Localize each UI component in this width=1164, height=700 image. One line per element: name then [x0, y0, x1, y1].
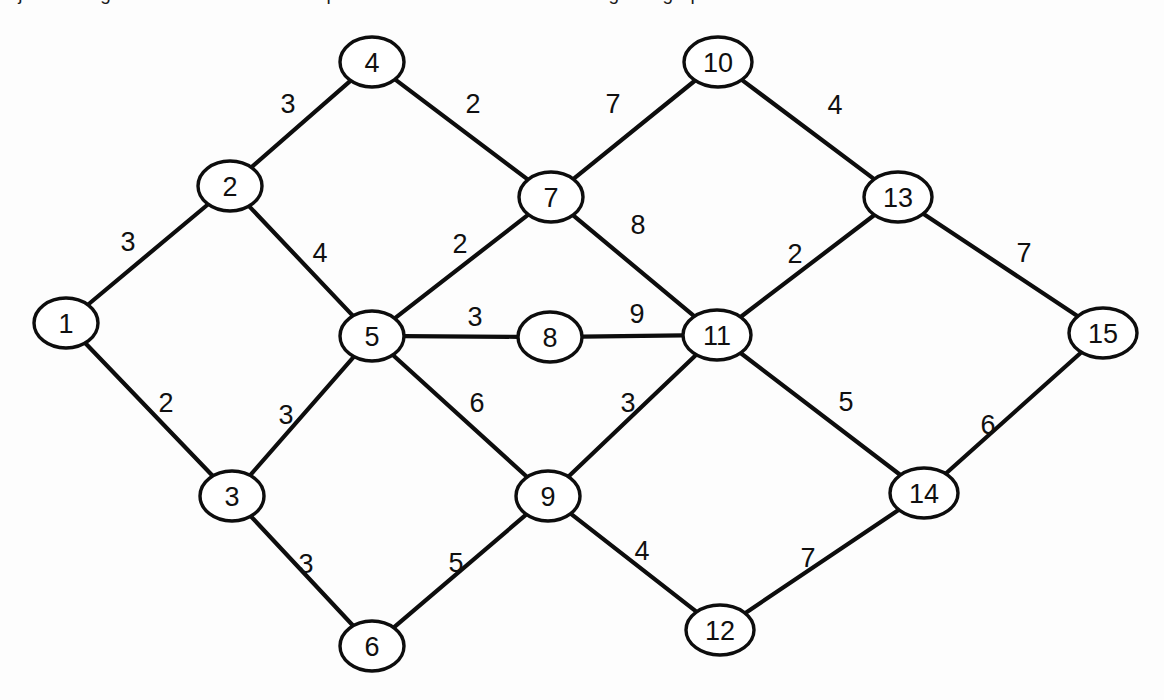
- edge-weight-label: 9: [629, 299, 644, 329]
- graph-edge: [573, 80, 695, 179]
- weighted-graph-diagram: 3234332236578934425776 12345678910111213…: [0, 0, 1164, 700]
- node-label: 4: [364, 48, 379, 78]
- graph-node[interactable]: 10: [684, 37, 752, 87]
- node-label: 5: [364, 322, 379, 352]
- node-label: 8: [542, 323, 557, 353]
- graph-edge: [923, 214, 1078, 317]
- edge-weight-label: 2: [158, 388, 173, 418]
- edge-weight-label: 2: [465, 89, 480, 119]
- edge-weight-label: 4: [312, 238, 327, 268]
- edge-weight-label: 4: [634, 536, 649, 566]
- graph-node[interactable]: 14: [890, 468, 958, 518]
- graph-node[interactable]: 4: [340, 37, 404, 87]
- node-label: 10: [703, 48, 733, 78]
- graph-node[interactable]: 13: [864, 172, 932, 222]
- graph-node[interactable]: 6: [340, 621, 404, 671]
- graph-node[interactable]: 15: [1069, 308, 1137, 358]
- node-label: 7: [543, 183, 558, 213]
- edge-weight-label: 7: [800, 543, 815, 573]
- graph-edge: [250, 357, 354, 476]
- graph-node[interactable]: 2: [198, 161, 262, 211]
- edge-weight-label: 3: [120, 227, 135, 257]
- graph-edge: [393, 355, 527, 477]
- graph-edge: [745, 510, 899, 613]
- edge-weight-label: 8: [630, 210, 645, 240]
- edge-weight-label: 3: [620, 388, 635, 418]
- edge-weight-label: 3: [298, 549, 313, 579]
- node-label: 13: [883, 183, 913, 213]
- graph-edge: [946, 352, 1082, 473]
- graph-edge: [582, 335, 683, 336]
- graph-node[interactable]: 12: [686, 605, 754, 655]
- graph-node[interactable]: 3: [200, 471, 264, 521]
- edge-weight-label: 2: [787, 239, 802, 269]
- graph-edge: [249, 206, 353, 316]
- graph-node[interactable]: 11: [683, 310, 751, 360]
- edge-weight-label: 4: [827, 90, 842, 120]
- edge-weight-label: 5: [448, 548, 463, 578]
- graph-edge: [741, 215, 875, 317]
- edge-weight-label: 6: [980, 410, 995, 440]
- node-label: 12: [705, 616, 735, 646]
- edge-weight-label: 3: [280, 89, 295, 119]
- graph-edge: [741, 353, 901, 475]
- graph-edge: [251, 81, 350, 168]
- graph-figure-canvas: Dijkstra's Algorithm - find the shortest…: [0, 0, 1164, 700]
- graph-node[interactable]: 7: [519, 172, 583, 222]
- graph-edge: [404, 336, 518, 337]
- edge-weight-label: 7: [1016, 238, 1031, 268]
- node-label: 14: [909, 479, 939, 509]
- graph-node[interactable]: 1: [34, 298, 98, 348]
- node-label: 9: [540, 482, 555, 512]
- edge-weight-label: 5: [838, 387, 853, 417]
- node-label: 15: [1088, 319, 1118, 349]
- graph-edge: [88, 204, 208, 304]
- edge-weight-label: 2: [452, 229, 467, 259]
- graph-edge: [85, 343, 213, 476]
- node-label: 6: [364, 632, 379, 662]
- node-label: 11: [703, 321, 731, 351]
- edge-weight-label: 7: [605, 89, 620, 119]
- edge-weight-label: 6: [469, 388, 484, 418]
- graph-edge: [742, 80, 874, 179]
- node-label: 3: [224, 482, 239, 512]
- edge-weight-label: 3: [467, 302, 482, 332]
- graph-node[interactable]: 9: [516, 471, 580, 521]
- edge-weight-label: 3: [278, 400, 293, 430]
- graph-edge: [395, 79, 528, 179]
- graph-node[interactable]: 5: [340, 311, 404, 361]
- node-label: 1: [58, 309, 73, 339]
- graph-node[interactable]: 8: [518, 312, 582, 362]
- nodes-layer: 123456789101112131415: [34, 37, 1137, 671]
- node-label: 2: [222, 172, 237, 202]
